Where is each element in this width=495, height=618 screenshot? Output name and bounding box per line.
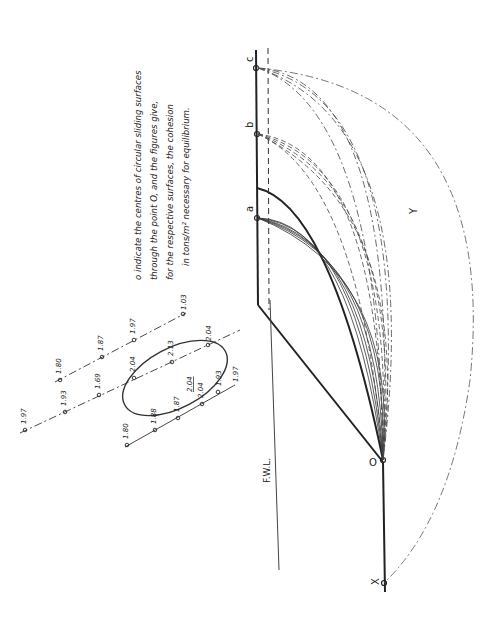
svg-text:2.04: 2.04 bbox=[205, 325, 213, 341]
svg-text:X: X bbox=[370, 578, 381, 585]
svg-text:1.87: 1.87 bbox=[173, 396, 181, 412]
legend-line-1: o indicate the centres of circular slidi… bbox=[133, 70, 143, 280]
label-Y: Y bbox=[408, 207, 419, 215]
arc-Y bbox=[258, 68, 473, 583]
svg-text:1.87: 1.87 bbox=[97, 335, 105, 351]
centre-line-3 bbox=[125, 385, 235, 447]
svg-text:c: c bbox=[244, 57, 255, 63]
svg-text:2.04: 2.04 bbox=[197, 382, 205, 398]
svg-text:1.93: 1.93 bbox=[215, 370, 223, 386]
svg-text:O: O bbox=[369, 457, 377, 468]
legend-line-2: through the point O, and the figures giv… bbox=[149, 101, 159, 280]
svg-text:1.80: 1.80 bbox=[55, 358, 63, 374]
svg-text:b: b bbox=[244, 122, 255, 128]
svg-text:a: a bbox=[244, 206, 255, 212]
svg-text:1.97: 1.97 bbox=[129, 318, 137, 334]
arcs-from-a bbox=[258, 218, 384, 460]
svg-text:1.80: 1.80 bbox=[122, 423, 130, 439]
dashed-line bbox=[268, 48, 269, 310]
svg-text:1.93: 1.93 bbox=[60, 390, 68, 406]
svg-text:1.69: 1.69 bbox=[94, 373, 102, 389]
svg-text:2.04: 2.04 bbox=[129, 356, 137, 372]
svg-text:2.13: 2.13 bbox=[167, 340, 175, 356]
legend-note: o indicate the centres of circular slidi… bbox=[133, 70, 191, 280]
svg-text:1.03: 1.03 bbox=[180, 294, 188, 310]
legend-line-4: in tons/m² necessary for equilibrium. bbox=[181, 107, 191, 266]
centre-line-1 bbox=[20, 330, 240, 433]
fwl-line bbox=[270, 300, 279, 570]
fwl-label: F.W.L. bbox=[262, 458, 272, 483]
legend-line-3: for the respective surfaces, the cohesio… bbox=[165, 104, 175, 280]
svg-text:1.88: 1.88 bbox=[150, 408, 158, 424]
svg-text:1.97: 1.97 bbox=[232, 366, 240, 382]
min-value-label: 2.04 bbox=[186, 376, 194, 392]
svg-text:1.97: 1.97 bbox=[20, 408, 28, 424]
slope-stability-diagram: o indicate the centres of circular slidi… bbox=[0, 0, 495, 618]
